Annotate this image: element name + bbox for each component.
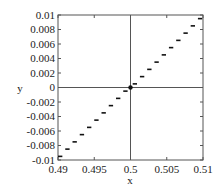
y-tick-label: -0.008 bbox=[27, 139, 56, 151]
y-tick-label: 0.008 bbox=[30, 23, 55, 35]
origin-dot bbox=[128, 85, 132, 89]
y-tick-label: -0.002 bbox=[27, 96, 55, 108]
y-tick-label: 0.002 bbox=[30, 67, 55, 79]
x-axis-label: x bbox=[127, 174, 133, 186]
y-axis-label: y bbox=[17, 82, 23, 94]
staircase-chart: -0.01-0.008-0.006-0.004-0.00200.0020.004… bbox=[0, 0, 221, 194]
y-tick-label: -0.006 bbox=[27, 125, 56, 137]
y-tick-label: -0.004 bbox=[27, 110, 56, 122]
x-tick-label: 0.505 bbox=[154, 163, 179, 175]
y-tick-label: 0.01 bbox=[36, 9, 55, 21]
x-tick-label: 0.495 bbox=[82, 163, 107, 175]
y-tick-label: 0 bbox=[50, 81, 56, 93]
x-tick-label: 0.51 bbox=[193, 163, 212, 175]
y-tick-label: 0.004 bbox=[30, 52, 55, 64]
y-tick-label: 0.006 bbox=[30, 38, 55, 50]
origin-point bbox=[128, 85, 132, 89]
x-tick-label: 0.49 bbox=[48, 163, 68, 175]
